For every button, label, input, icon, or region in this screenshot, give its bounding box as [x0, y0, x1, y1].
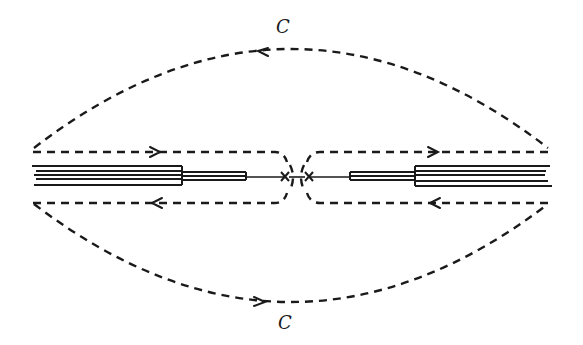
right-lower-keyhole-path	[307, 193, 548, 203]
arrow-left-icon-top	[258, 48, 268, 56]
contour-diagram	[0, 0, 583, 345]
arrow-right-icon-bottom	[254, 297, 265, 306]
outer-contour-upper-arc	[34, 49, 548, 148]
contour-label-top: C	[276, 16, 290, 37]
outer-contour-lower-arc	[34, 204, 548, 302]
left-upper-keyhole-path	[33, 152, 287, 162]
left-branch-cut	[32, 166, 286, 185]
right-branch-cut	[308, 166, 552, 186]
contour-label-bottom: C	[278, 312, 292, 333]
